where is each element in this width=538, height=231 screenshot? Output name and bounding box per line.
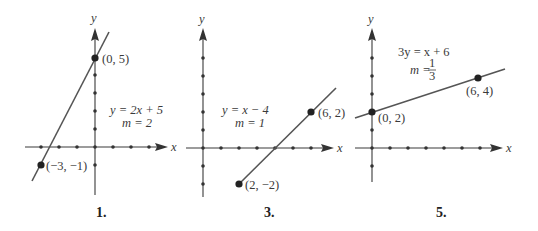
y-axis-label: y — [89, 11, 97, 25]
figure-number: 3. — [264, 205, 275, 220]
point-label: (2, −2) — [245, 178, 279, 192]
point-6-4 — [474, 74, 481, 81]
point-0-2 — [368, 108, 375, 115]
slope-denominator: 3 — [429, 69, 435, 83]
x-axis-label: x — [336, 141, 343, 155]
slope-label: m = — [410, 63, 431, 77]
equation-label: y = x − 4 — [220, 103, 269, 117]
point-neg3-neg1 — [37, 161, 44, 168]
slope-label: m = 1 — [235, 116, 265, 130]
point-label: (−3, −1) — [46, 159, 87, 173]
y-axis-label: y — [366, 12, 374, 26]
slope-label: m = 2 — [122, 116, 152, 130]
y-axis-label: y — [197, 12, 205, 26]
point-label: (0, 5) — [102, 52, 129, 66]
slope-numerator: 1 — [429, 56, 435, 70]
graph-1: x y (0, 5) (−3, −1) y = 2x + 5 m = 2 1. — [25, 11, 177, 220]
graph-3: x y (6, 2) (2, −2) y = x − 4 m = 1 3. — [186, 12, 345, 220]
x-axis-label: x — [505, 141, 512, 155]
point-label: (6, 4) — [466, 84, 493, 98]
point-label: (6, 2) — [318, 106, 345, 120]
point-label: (0, 2) — [378, 111, 405, 125]
graph-5: x y (0, 2) (6, 4) 3y = x + 6 m = 1 3 5. — [355, 12, 512, 220]
equation-label: 3y = x + 6 — [398, 45, 450, 59]
point-0-5 — [91, 54, 98, 61]
x-axis-label: x — [170, 140, 177, 154]
figure-number: 1. — [96, 205, 107, 220]
figure-number: 5. — [436, 205, 447, 220]
point-2-neg2 — [235, 180, 242, 187]
equation-label: y = 2x + 5 — [108, 103, 163, 117]
point-6-2 — [307, 108, 314, 115]
